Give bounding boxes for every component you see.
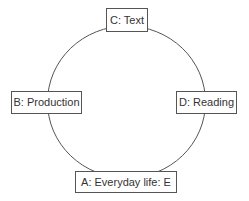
- node-d-reading: D: Reading: [176, 91, 237, 114]
- node-c-text: C: Text: [106, 8, 148, 32]
- node-b-production: B: Production: [11, 91, 82, 114]
- node-a-label: A: Everyday life: E: [81, 177, 171, 188]
- node-c-label: C: Text: [110, 15, 144, 26]
- node-a-everyday-life: A: Everyday life: E: [75, 171, 177, 193]
- node-b-label: B: Production: [13, 97, 79, 108]
- node-d-label: D: Reading: [179, 97, 234, 108]
